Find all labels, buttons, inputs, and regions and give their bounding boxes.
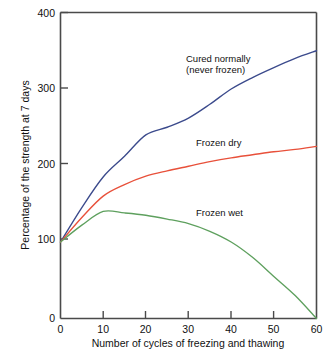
- x-tick-label-30: 30: [182, 323, 194, 335]
- chart-background: [0, 0, 332, 352]
- annotation-frozen-dry: Frozen dry: [196, 137, 242, 148]
- y-tick-label-100: 100: [37, 233, 55, 245]
- x-tick-label-40: 40: [225, 323, 237, 335]
- x-tick-label-20: 20: [140, 323, 152, 335]
- y-tick-label-200: 200: [37, 158, 55, 170]
- annotation-frozen-wet: Frozen wet: [196, 207, 243, 218]
- y-tick-label-300: 300: [37, 82, 55, 94]
- x-tick-label-0: 0: [58, 323, 64, 335]
- line-chart-svg: 400 300 200 100 0 0 10 20 30 40 50 60 Nu…: [0, 0, 332, 352]
- annotation-cured-normally-line2: (never frozen): [186, 64, 245, 75]
- x-tick-label-60: 60: [311, 323, 323, 335]
- y-tick-label-0: 0: [49, 312, 55, 324]
- x-tick-label-50: 50: [268, 323, 280, 335]
- x-tick-label-10: 10: [97, 323, 109, 335]
- x-axis-title: Number of cycles of freezing and thawing: [92, 337, 285, 349]
- y-axis-title: Percentage of the strength at 7 days: [19, 80, 31, 249]
- chart-figure: 400 300 200 100 0 0 10 20 30 40 50 60 Nu…: [0, 0, 332, 352]
- annotation-cured-normally-line1: Cured normally: [186, 53, 251, 64]
- y-tick-label-400: 400: [37, 7, 55, 19]
